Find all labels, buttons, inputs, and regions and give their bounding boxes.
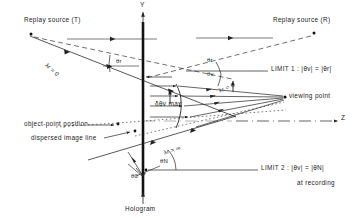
lower-diagonal-arrows bbox=[150, 128, 196, 145]
theta-0-label: θ0 bbox=[131, 173, 138, 179]
replay-source-t-label: Replay source (T) bbox=[24, 17, 81, 23]
theta-N-lower-label: θN bbox=[160, 158, 168, 164]
object-point-position-label: object-point position bbox=[24, 121, 88, 127]
replay-source-r-label: Replay source (R) bbox=[273, 17, 330, 23]
limit2-leader bbox=[145, 169, 258, 172]
object-point-leader bbox=[88, 123, 119, 126]
replay-beam-t-dashed bbox=[34, 37, 232, 79]
object-point-dotted-line bbox=[56, 110, 286, 127]
dispersed-image-line-label: dispersed image line bbox=[31, 135, 97, 141]
angle-arc-theta-v bbox=[218, 74, 221, 86]
y-axis-label: Y bbox=[140, 2, 145, 9]
viewing-point-label: viewing point bbox=[289, 93, 331, 99]
limit1-label: LIMIT 1 : |θv| = |θr| bbox=[271, 66, 332, 72]
replay-source-t-point bbox=[30, 33, 33, 36]
limit2-label: LIMIT 2 : |θv| = |θN| bbox=[261, 165, 324, 171]
replay-source-r-point bbox=[313, 32, 316, 35]
delta-theta-v-max-label: δθv max bbox=[155, 101, 182, 107]
hologram-label: Hologram bbox=[125, 206, 156, 212]
plane-contact-dots bbox=[142, 76, 144, 78]
theta-r-left-label: θr bbox=[116, 58, 122, 64]
at-recording-label: at recording bbox=[297, 180, 335, 186]
top-right-reference-line bbox=[196, 36, 273, 40]
viewing-point-marker bbox=[283, 95, 286, 98]
z-axis-label: Z bbox=[341, 115, 345, 122]
theta-v-label: θv bbox=[207, 71, 214, 77]
theta-r-label: θr bbox=[207, 57, 213, 63]
dispersed-image-leader bbox=[104, 130, 136, 138]
object-point-ray bbox=[88, 116, 236, 160]
dispersed-image-line-main bbox=[30, 36, 236, 117]
angle-arc-theta-r bbox=[216, 62, 221, 74]
